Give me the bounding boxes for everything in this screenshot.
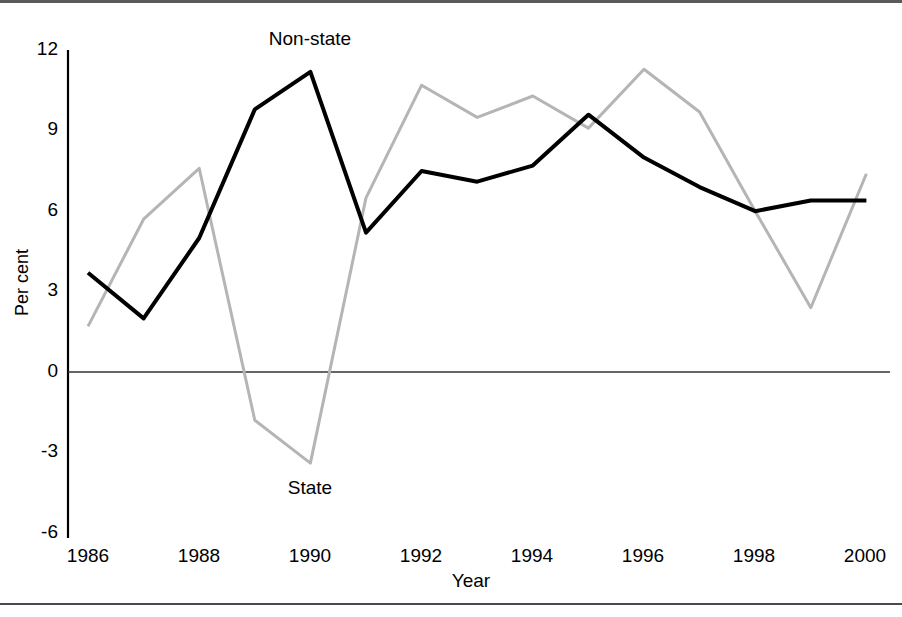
- chart-page: 12 9 6 3 0 -3 -6 1986 1988 1990 1992 199…: [0, 0, 902, 617]
- series-annotation-non-state: Non-state: [200, 28, 420, 50]
- x-tick-1990: 1990: [275, 545, 345, 567]
- x-tick-1992: 1992: [386, 545, 456, 567]
- x-tick-1998: 1998: [719, 545, 789, 567]
- x-axis-title: Year: [416, 570, 526, 592]
- y-tick-9: 9: [18, 118, 58, 140]
- x-tick-1986: 1986: [53, 545, 123, 567]
- y-tick-neg6: -6: [18, 521, 58, 543]
- line-chart-plot: [0, 0, 902, 617]
- y-tick-6: 6: [18, 199, 58, 221]
- series-line-state: [88, 69, 866, 463]
- x-tick-1994: 1994: [497, 545, 567, 567]
- x-tick-2000: 2000: [830, 545, 900, 567]
- y-tick-neg3: -3: [18, 440, 58, 462]
- y-tick-0: 0: [18, 360, 58, 382]
- x-tick-1996: 1996: [608, 545, 678, 567]
- y-tick-12: 12: [18, 38, 58, 60]
- y-axis-title: Per cent: [12, 228, 33, 338]
- series-annotation-state: State: [215, 477, 405, 499]
- x-tick-1988: 1988: [164, 545, 234, 567]
